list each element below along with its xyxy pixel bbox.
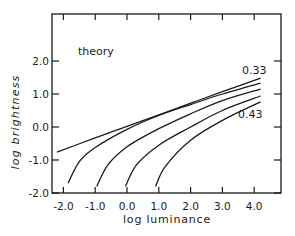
x-axis-label: log luminance [123,213,211,226]
y-tick-label: 2.0 [32,55,49,67]
x-tick-label: -2.0 [53,200,74,212]
curves [57,78,261,186]
x-tick-label: 0.0 [119,200,136,212]
y-tick-label: -1.0 [29,154,50,166]
x-tick-label: 4.0 [246,200,263,212]
x-tick-label: 2.0 [182,200,199,212]
y-tick-label: -2.0 [29,187,50,199]
curve-label-0.43: 0.43 [238,108,263,121]
curve-label-0.33: 0.33 [242,64,267,77]
chart: -2.0-1.00.01.02.03.04.0-2.0-1.00.01.02.0… [0,0,295,236]
x-tick-label: -1.0 [85,200,106,212]
annotation-theory: theory [78,45,114,58]
axis-ticks [52,14,281,193]
plot-frame [52,14,281,193]
x-tick-label: 3.0 [214,200,231,212]
y-axis-label: log brightness [9,74,22,169]
y-tick-label: 0.0 [32,121,49,133]
x-tick-label: 1.0 [150,200,167,212]
curve-3 [97,89,261,186]
y-tick-label: 1.0 [32,88,49,100]
